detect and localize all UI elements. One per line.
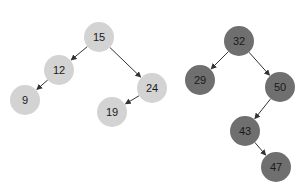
node-label: 32 [233, 35, 245, 47]
edge-arrow-12-to-9 [37, 80, 48, 89]
tree-node-29: 29 [185, 65, 215, 95]
edge-arrow-50-to-43 [255, 99, 271, 119]
node-label: 29 [194, 74, 206, 86]
edge-arrow-15-to-12 [71, 47, 87, 60]
edge-arrow-32-to-29 [211, 52, 228, 69]
edge-arrow-15-to-24 [110, 47, 141, 77]
tree-node-24: 24 [137, 73, 167, 103]
tree-node-43: 43 [230, 116, 260, 146]
tree-node-47: 47 [261, 152, 291, 182]
edge-arrow-43-to-47 [255, 142, 266, 155]
edge-arrow-24-to-19 [126, 96, 139, 104]
tree-node-32: 32 [224, 26, 254, 56]
node-label: 47 [270, 161, 282, 173]
edge-arrow-32-to-50 [249, 52, 269, 75]
node-label: 43 [239, 125, 251, 137]
binary-trees-diagram: 1512924193229504347 [0, 0, 305, 195]
tree-node-12: 12 [44, 55, 74, 85]
node-label: 15 [93, 31, 105, 43]
node-label: 9 [22, 94, 28, 106]
node-label: 19 [106, 106, 118, 118]
node-label: 12 [53, 64, 65, 76]
tree-node-15: 15 [84, 22, 114, 52]
tree-node-50: 50 [265, 72, 295, 102]
nodes-layer: 1512924193229504347 [10, 22, 295, 182]
tree-node-19: 19 [97, 97, 127, 127]
node-label: 50 [274, 81, 286, 93]
tree-node-9: 9 [10, 85, 40, 115]
node-label: 24 [146, 82, 158, 94]
